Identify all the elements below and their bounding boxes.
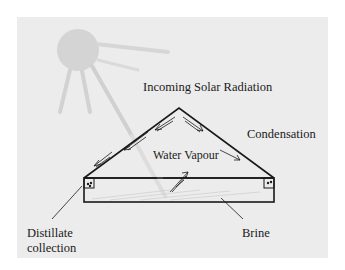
label-distillate: Distillate [27,226,73,240]
label-incoming-solar-radiation: Incoming Solar Radiation [143,80,272,94]
label-collection: collection [27,241,76,255]
label-condensation: Condensation [247,127,316,141]
brine-water [92,190,260,200]
distillate-trough-right [264,178,274,188]
glass-cover [84,108,274,178]
distillate-trough-left [84,178,94,188]
label-water-vapour: Water Vapour [153,148,219,162]
label-brine: Brine [242,226,270,240]
light-ray [132,136,165,196]
